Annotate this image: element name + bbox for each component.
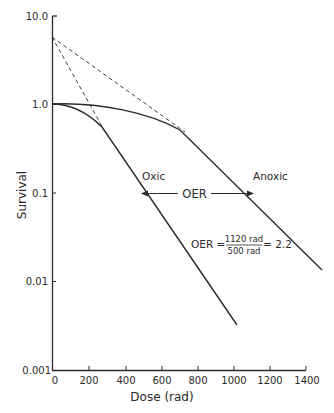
axes [52, 16, 306, 371]
oer-formula-denominator: 500 rad [227, 246, 260, 256]
extrapolation-lines [52, 37, 185, 132]
x-tick-label: 600 [152, 375, 171, 386]
anoxic-label: Anoxic [253, 170, 288, 182]
x-tick-label: 0 [52, 375, 58, 386]
y-tick-label: 1.0 [32, 99, 48, 110]
x-tick-label: 1400 [294, 375, 319, 386]
x-tick-label: 800 [188, 375, 207, 386]
oer-formula-result: = 2.2 [263, 238, 292, 250]
x-tick-label: 400 [116, 375, 135, 386]
oer-formula-numerator: 1120 rad [225, 234, 263, 244]
y-tick-label: 0.001 [22, 365, 51, 376]
oxic-label: Oxic [142, 170, 165, 182]
anoxic-extrapolation-line [52, 37, 185, 132]
y-tick-label: 0.01 [26, 276, 48, 287]
oer-arrow-label: OER [182, 187, 206, 201]
y-axis-title: Survival [15, 171, 29, 219]
oer-formula: OER = 1120 rad 500 rad = 2.2 [191, 234, 292, 256]
x-tick-label: 200 [79, 375, 98, 386]
survival-curves [52, 104, 322, 325]
oxic-curve [52, 104, 237, 325]
y-tick-label: 0.1 [32, 188, 48, 199]
oer-formula-prefix: OER = [191, 238, 225, 250]
x-tick-label: 1200 [257, 375, 282, 386]
x-axis-title: Dose (rad) [130, 390, 193, 404]
x-tick-labels: 0 200 400 600 800 1000 1200 1400 [52, 375, 320, 386]
y-tick-label: 10.0 [26, 11, 48, 22]
oxic-extrapolation-line [52, 37, 103, 128]
x-tick-label: 1000 [221, 375, 246, 386]
survival-curve-chart: 10.0 1.0 0.1 0.01 0.001 0 200 400 600 80… [0, 0, 334, 413]
x-ticks [89, 366, 306, 370]
